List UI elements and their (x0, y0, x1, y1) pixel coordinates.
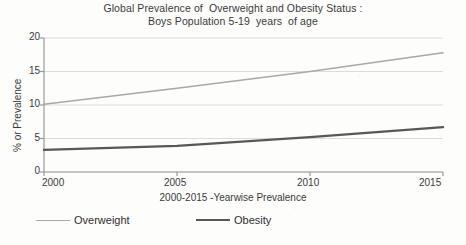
chart-legend: OverweightObesity (0, 214, 466, 234)
legend-item-obesity[interactable]: Obesity (196, 214, 271, 226)
series-line-overweight (44, 53, 443, 105)
legend-label: Obesity (234, 214, 271, 226)
legend-swatch-obesity (196, 219, 230, 221)
legend-item-overweight[interactable]: Overweight (36, 214, 130, 226)
plot-area (0, 0, 466, 245)
chart-figure: Global Prevalence of Overweight and Obes… (0, 0, 466, 245)
legend-swatch-overweight (36, 220, 70, 221)
legend-label: Overweight (74, 214, 130, 226)
